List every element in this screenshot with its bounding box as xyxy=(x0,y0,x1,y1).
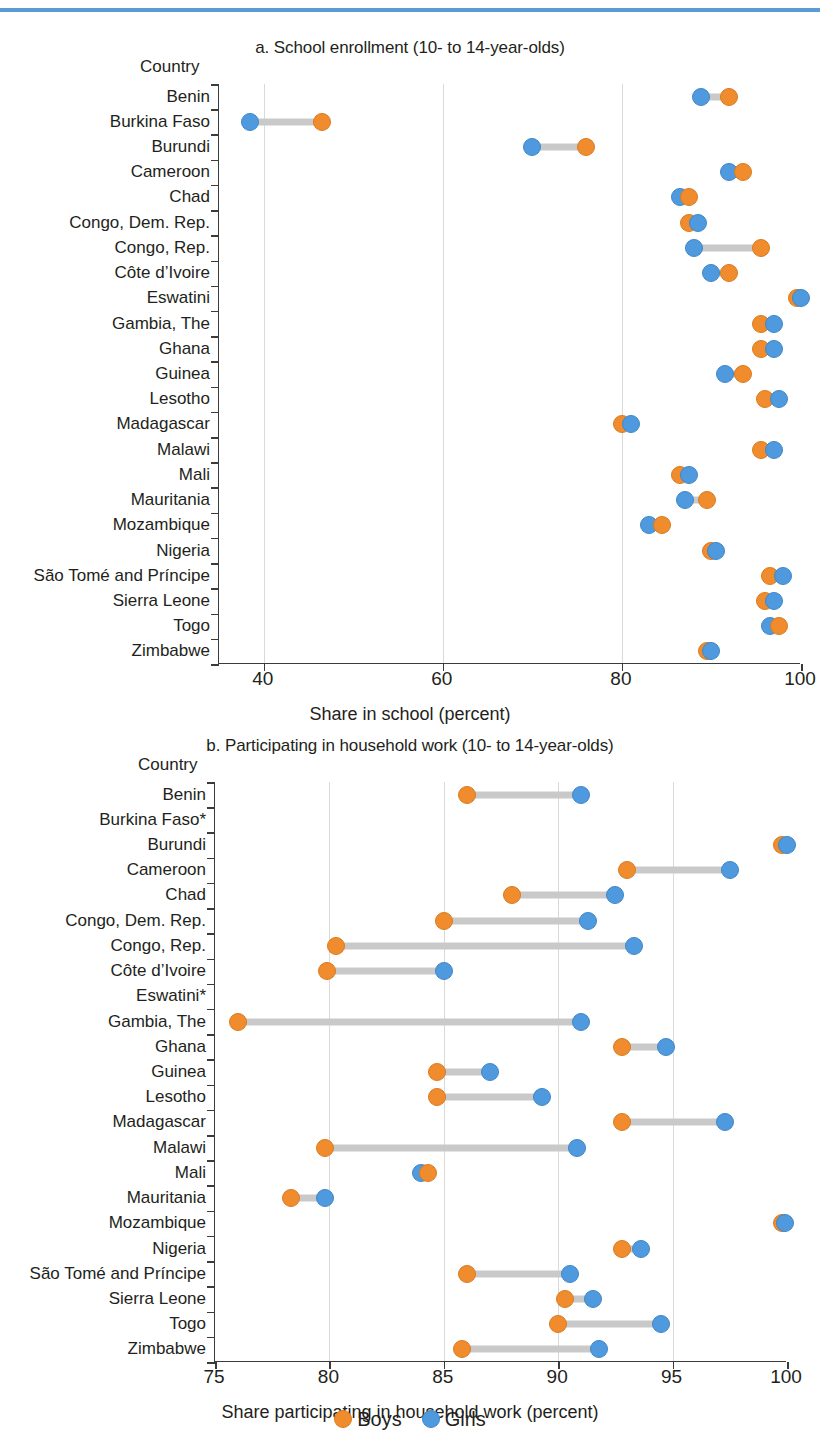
y-axis-category-label: Congo, Dem. Rep. xyxy=(69,213,210,233)
y-axis-category-label: Congo, Rep. xyxy=(111,936,206,956)
data-point-boys xyxy=(734,365,752,383)
y-axis-tick xyxy=(211,462,219,464)
y-axis-tick xyxy=(207,858,215,860)
data-point-girls xyxy=(765,315,783,333)
y-axis-category-label: Nigeria xyxy=(156,541,210,561)
data-point-girls xyxy=(572,786,590,804)
data-point-girls xyxy=(632,1240,650,1258)
y-axis-category-label: Sierra Leone xyxy=(109,1289,206,1309)
y-axis-tick xyxy=(207,908,215,910)
data-point-girls xyxy=(721,861,739,879)
data-point-girls xyxy=(774,567,792,585)
data-point-girls xyxy=(689,214,707,232)
y-axis-tick xyxy=(207,1312,215,1314)
y-axis-tick xyxy=(207,1009,215,1011)
data-point-girls xyxy=(657,1038,675,1056)
dumbbell-connector xyxy=(444,917,588,924)
y-axis-tick xyxy=(211,487,219,489)
y-axis-tick xyxy=(211,538,219,540)
dumbbell-connector xyxy=(694,244,761,251)
data-point-boys xyxy=(577,138,595,156)
y-axis-category-label: Sierra Leone xyxy=(113,591,210,611)
dumbbell-connector xyxy=(336,942,633,949)
boys-swatch-icon xyxy=(334,1410,352,1428)
y-axis-category-label: Zimbabwe xyxy=(128,1339,206,1359)
y-axis-category-label: Ghana xyxy=(159,339,210,359)
data-point-girls xyxy=(765,441,783,459)
y-axis-tick xyxy=(211,664,219,666)
data-point-boys xyxy=(734,163,752,181)
dumbbell-connector xyxy=(327,968,444,975)
y-axis-category-label: Cameroon xyxy=(131,162,210,182)
chart-panel-b: b. Participating in household work (10- … xyxy=(0,726,820,1426)
x-axis-tick-label: 80 xyxy=(318,1366,339,1388)
data-point-girls xyxy=(316,1189,334,1207)
y-axis-category-label: Guinea xyxy=(151,1062,206,1082)
data-point-girls xyxy=(685,239,703,257)
y-axis-tick xyxy=(207,883,215,885)
y-axis-tick xyxy=(207,1160,215,1162)
y-axis-category-label: Chad xyxy=(165,885,206,905)
y-axis-category-label: São Tomé and Príncipe xyxy=(34,566,210,586)
dumbbell-connector xyxy=(622,1119,725,1126)
y-axis-category-label: Congo, Dem. Rep. xyxy=(65,911,206,931)
data-point-girls xyxy=(702,264,720,282)
y-axis-tick xyxy=(211,84,219,86)
y-axis-category-label: Côte d’Ivoire xyxy=(115,263,210,283)
y-axis-category-label: Congo, Rep. xyxy=(115,238,210,258)
y-axis-category-label: São Tomé and Príncipe xyxy=(30,1264,206,1284)
y-axis-tick xyxy=(211,412,219,414)
y-axis-tick xyxy=(211,160,219,162)
y-axis-tick xyxy=(207,933,215,935)
y-axis-tick xyxy=(211,361,219,363)
data-point-girls xyxy=(702,642,720,660)
y-axis-tick xyxy=(207,1085,215,1087)
data-point-boys xyxy=(327,937,345,955)
y-axis-tick xyxy=(207,1286,215,1288)
y-axis-category-label: Chad xyxy=(169,187,210,207)
x-axis-tick-label: 80 xyxy=(610,668,631,690)
y-axis-category-label: Mali xyxy=(175,1163,206,1183)
dumbbell-connector xyxy=(558,1321,661,1328)
y-axis-category-label: Zimbabwe xyxy=(132,641,210,661)
data-point-girls xyxy=(680,466,698,484)
x-axis-tick-label: 90 xyxy=(547,1366,568,1388)
data-point-girls xyxy=(241,113,259,131)
y-axis-tick xyxy=(211,437,219,439)
y-axis-category-label: Eswatini* xyxy=(136,986,206,1006)
y-axis-category-label: Mauritania xyxy=(131,490,210,510)
data-point-girls xyxy=(716,1113,734,1131)
y-axis-tick xyxy=(207,1236,215,1238)
chart-panel-a: a. School enrollment (10- to 14-year-old… xyxy=(0,24,820,724)
y-axis-category-label: Eswatini xyxy=(147,288,210,308)
data-point-boys xyxy=(458,786,476,804)
data-point-boys xyxy=(752,239,770,257)
dumbbell-connector xyxy=(238,1018,581,1025)
data-point-boys xyxy=(698,491,716,509)
y-axis-tick xyxy=(207,1034,215,1036)
data-point-girls xyxy=(590,1340,608,1358)
data-point-boys xyxy=(720,264,738,282)
y-axis-tick xyxy=(211,109,219,111)
data-point-girls xyxy=(584,1290,602,1308)
x-axis-tick-label: 100 xyxy=(770,1366,802,1388)
y-axis-tick xyxy=(211,311,219,313)
data-point-girls xyxy=(765,592,783,610)
figure-legend: BoysGirls xyxy=(0,1408,820,1431)
data-point-girls xyxy=(572,1013,590,1031)
y-axis-category-label: Cameroon xyxy=(127,860,206,880)
data-point-boys xyxy=(720,88,738,106)
y-axis-tick xyxy=(207,1261,215,1263)
data-point-boys xyxy=(428,1063,446,1081)
y-axis-tick xyxy=(211,185,219,187)
y-axis-category-label: Mozambique xyxy=(113,515,210,535)
data-point-boys xyxy=(613,1038,631,1056)
data-point-girls xyxy=(568,1139,586,1157)
y-axis-category-label: Nigeria xyxy=(152,1239,206,1259)
y-axis-tick xyxy=(207,984,215,986)
y-axis-category-label: Burundi xyxy=(147,835,206,855)
x-axis-tick-label: 40 xyxy=(252,668,273,690)
y-axis-tick xyxy=(207,782,215,784)
data-point-girls xyxy=(579,912,597,930)
y-axis-category-label: Burkina Faso xyxy=(110,112,210,132)
